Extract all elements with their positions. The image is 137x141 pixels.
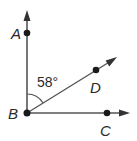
- arrow-bd-icon: [106, 57, 117, 67]
- point-a: [24, 30, 31, 37]
- point-d: [93, 67, 100, 74]
- label-c: C: [100, 122, 111, 139]
- label-a: A: [10, 25, 21, 42]
- label-d: D: [90, 79, 101, 96]
- arrow-ba-icon: [24, 10, 31, 21]
- arrow-bc-icon: [119, 110, 130, 117]
- angle-diagram: A B D C 58°: [0, 0, 137, 141]
- angle-label: 58°: [37, 74, 58, 90]
- label-b: B: [8, 105, 18, 122]
- diagram-canvas: A B D C 58°: [0, 0, 137, 141]
- point-c: [104, 110, 111, 117]
- angle-arc: [27, 94, 43, 103]
- point-b: [24, 110, 31, 117]
